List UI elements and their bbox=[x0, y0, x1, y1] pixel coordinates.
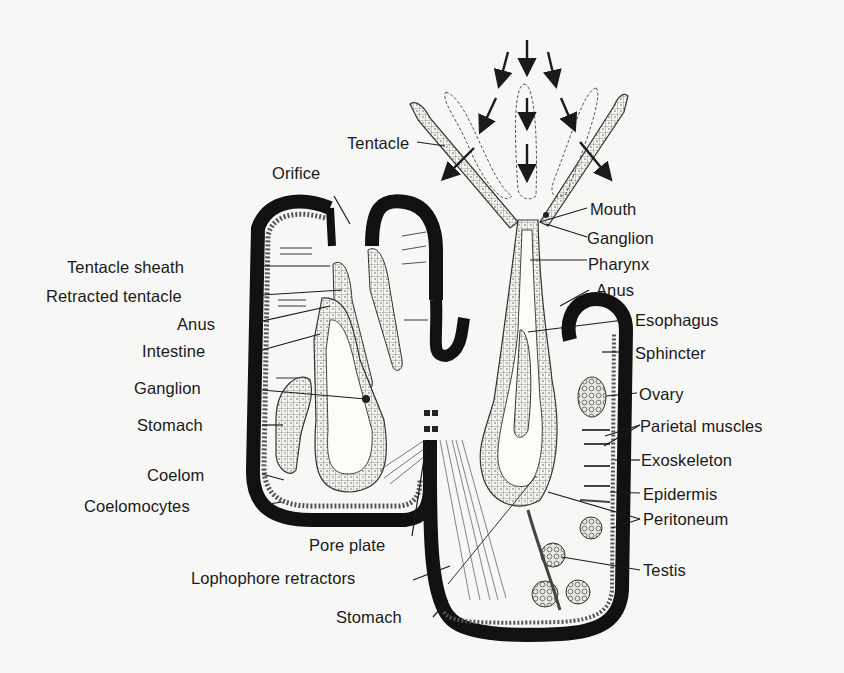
label-coelomocytes: Coelomocytes bbox=[84, 498, 190, 515]
label-anus-left: Anus bbox=[177, 316, 215, 333]
label-anus-right: Anus bbox=[596, 282, 634, 299]
label-coelom: Coelom bbox=[147, 467, 204, 484]
label-stomach-bottom: Stomach bbox=[336, 609, 402, 626]
bryozoan-diagram: Orifice Tentacle Tentacle sheath Retract… bbox=[0, 0, 844, 673]
label-epidermis: Epidermis bbox=[643, 486, 717, 503]
label-parietal-muscles: Parietal muscles bbox=[640, 418, 763, 435]
label-ganglion-left: Ganglion bbox=[134, 380, 201, 397]
label-tentacle: Tentacle bbox=[347, 135, 409, 152]
label-esophagus: Esophagus bbox=[635, 312, 718, 329]
label-pharynx: Pharynx bbox=[588, 256, 649, 273]
label-testis: Testis bbox=[643, 562, 686, 579]
label-ovary: Ovary bbox=[639, 386, 684, 403]
label-ganglion-right: Ganglion bbox=[587, 230, 654, 247]
label-sphincter: Sphincter bbox=[635, 345, 706, 362]
label-mouth: Mouth bbox=[590, 201, 636, 218]
label-tentacle-sheath: Tentacle sheath bbox=[67, 259, 184, 276]
label-stomach-left: Stomach bbox=[137, 417, 203, 434]
label-lophophore-retractors: Lophophore retractors bbox=[191, 570, 355, 587]
label-exoskeleton: Exoskeleton bbox=[641, 452, 732, 469]
label-peritoneum: Peritoneum bbox=[643, 511, 728, 528]
label-pore-plate: Pore plate bbox=[309, 537, 385, 554]
anatomy-illustration bbox=[0, 0, 844, 673]
label-orifice: Orifice bbox=[272, 165, 320, 182]
label-intestine: Intestine bbox=[142, 343, 205, 360]
label-retracted-tentacle: Retracted tentacle bbox=[46, 288, 182, 305]
